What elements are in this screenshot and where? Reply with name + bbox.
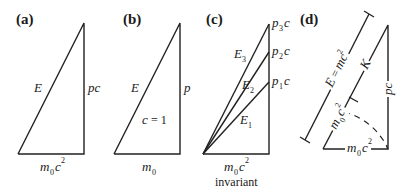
svg-text:c: c <box>284 73 290 88</box>
panel-d-kinetic-label: K <box>355 56 374 74</box>
svg-text:2: 2 <box>279 52 283 61</box>
svg-text:2: 2 <box>368 137 372 146</box>
panel-c-invariant-caption: invariant <box>215 175 258 189</box>
svg-text:pc: pc <box>380 83 395 97</box>
panel-c-label: (c) <box>206 11 223 28</box>
panel-a: (a) E pc m 0 c 2 <box>16 11 101 177</box>
panel-c-p3c-label: p 3 c <box>271 15 290 33</box>
svg-text:0: 0 <box>50 168 54 177</box>
panel-d-vertical-label: pc <box>380 81 395 97</box>
energy-momentum-triangles-figure: (a) E pc m 0 c 2 (b) E p c = 1 m 0 (c) <box>0 0 406 191</box>
panel-a-base-label: m 0 c 2 <box>40 156 65 177</box>
panel-c-base-label: m 0 c 2 <box>224 156 249 177</box>
panel-d-total-energy-label: E = mc 2 <box>319 48 352 91</box>
svg-text:c: c <box>284 15 290 30</box>
panel-d-dimension-end-tick-bottom <box>300 137 310 143</box>
panel-b-hypotenuse-label: E <box>130 80 139 95</box>
panel-b-label: (b) <box>123 11 141 28</box>
panel-c-e3-label: E 3 <box>233 46 246 64</box>
svg-text:0: 0 <box>357 149 361 158</box>
svg-text:3: 3 <box>242 55 246 64</box>
panel-b: (b) E p c = 1 m 0 <box>114 11 191 177</box>
panel-b-base-label: m 0 <box>142 159 156 177</box>
panel-c-p1c-label: p 1 c <box>271 73 290 91</box>
panel-b-c-equals-one: c = 1 <box>142 112 167 127</box>
svg-text:E: E <box>239 112 248 127</box>
panel-d-label: (d) <box>300 11 318 28</box>
svg-text:1: 1 <box>279 82 283 91</box>
svg-text:p: p <box>271 15 279 30</box>
panel-d: (d) E = mc 2 K m 0 c 2 <box>300 11 395 158</box>
panel-c-hypotenuse-e1 <box>203 82 269 154</box>
panel-a-label: (a) <box>16 11 34 28</box>
panel-a-triangle <box>18 23 84 154</box>
panel-a-hypotenuse-label: E <box>33 80 42 95</box>
svg-text:= 1: = 1 <box>148 113 167 127</box>
svg-text:p: p <box>271 43 279 58</box>
panel-d-rest-energy-segment-label: m 0 c 2 <box>323 101 353 134</box>
svg-text:2: 2 <box>250 86 254 95</box>
svg-text:0: 0 <box>152 168 156 177</box>
panel-b-vertical-label: p <box>183 80 191 95</box>
svg-text:K: K <box>356 56 374 73</box>
svg-text:2: 2 <box>245 156 249 165</box>
svg-text:2: 2 <box>61 156 65 165</box>
svg-text:E: E <box>233 46 242 61</box>
svg-text:m: m <box>40 159 49 174</box>
panel-c: (c) E 3 E 2 E 1 p 3 c p 2 c p <box>203 11 290 189</box>
panel-c-hypotenuse-e2 <box>203 52 269 154</box>
svg-text:c: c <box>284 43 290 58</box>
svg-text:m: m <box>142 159 151 174</box>
panel-a-vertical-label: pc <box>87 80 101 95</box>
panel-d-hypotenuse-tick <box>349 97 358 102</box>
panel-d-base-label: m 0 c 2 <box>345 137 372 158</box>
svg-text:3: 3 <box>279 24 283 33</box>
svg-text:m: m <box>224 159 233 174</box>
panel-c-hypotenuse-e3 <box>203 24 269 154</box>
svg-text:m: m <box>347 140 356 155</box>
panel-b-triangle <box>114 23 180 154</box>
panel-d-dimension-end-tick-top <box>364 11 374 17</box>
panel-c-p2c-label: p 2 c <box>271 43 290 61</box>
svg-text:E: E <box>241 77 250 92</box>
svg-text:p: p <box>271 73 279 88</box>
panel-c-e1-label: E 1 <box>239 112 252 130</box>
svg-text:1: 1 <box>248 121 252 130</box>
